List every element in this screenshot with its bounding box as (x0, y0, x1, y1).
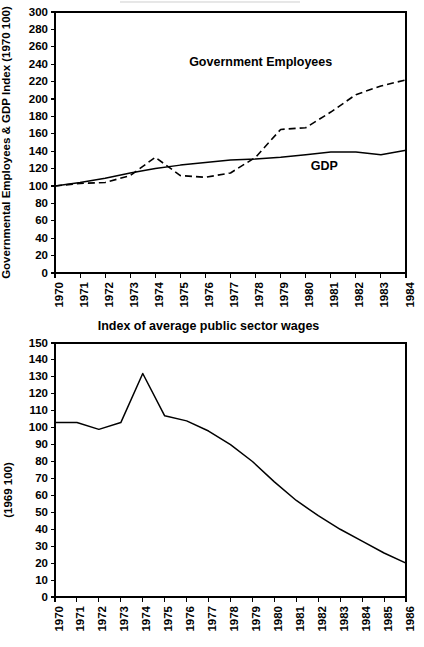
y-tick-label: 10 (35, 574, 48, 586)
x-tick-label: 1985 (382, 605, 394, 631)
x-tick-label: 1977 (206, 606, 218, 632)
y-tick-label: 150 (29, 337, 48, 349)
plot-frame-top-right (55, 343, 406, 597)
y-tick-label: 140 (29, 145, 48, 157)
x-tick-label: 1974 (153, 281, 165, 307)
x-tick-label: 1972 (96, 606, 108, 632)
y-tick-label: 240 (29, 58, 48, 70)
series-line-government-employees (55, 80, 406, 186)
y-tick-label: 110 (29, 404, 48, 416)
y-tick-label: 200 (29, 93, 48, 105)
y-tick-label: 280 (29, 23, 48, 35)
y-tick-label: 160 (29, 127, 48, 139)
chart-bottom-svg: Index of average public sector wages0102… (0, 318, 424, 647)
x-tick-label: 1981 (328, 281, 340, 307)
chart-governmental-employees-gdp: 0204060801001201401601802002202402602803… (0, 0, 424, 330)
x-tick-label: 1973 (128, 282, 140, 308)
plot-frame-top-right (55, 12, 406, 273)
chart-title: Index of average public sector wages (98, 319, 320, 333)
y-tick-label: 100 (29, 421, 48, 433)
y-tick-label: 220 (29, 75, 48, 87)
y-tick-label: 0 (42, 267, 48, 279)
x-tick-label: 1978 (253, 281, 265, 307)
y-tick-label: 30 (35, 540, 48, 552)
y-tick-label: 120 (29, 387, 48, 399)
y-tick-label: 140 (29, 353, 48, 365)
x-tick-label: 1980 (272, 606, 284, 632)
x-tick-label: 1971 (78, 281, 90, 307)
y-tick-label: 40 (35, 232, 48, 244)
x-tick-label: 1979 (278, 282, 290, 308)
series-line-public-sector-wages (55, 373, 406, 563)
x-tick-label: 1975 (162, 605, 174, 631)
y-tick-label: 80 (35, 197, 48, 209)
x-tick-label: 1973 (118, 606, 130, 632)
y-tick-label: 20 (35, 249, 48, 261)
series-annotation-government-employees: Government Employees (189, 55, 332, 69)
chart-index-average-public-sector-wages: Index of average public sector wages0102… (0, 318, 424, 647)
y-tick-label: 60 (35, 489, 48, 501)
y-tick-label: 260 (29, 40, 48, 52)
y-tick-label: 100 (29, 180, 48, 192)
x-tick-label: 1976 (184, 606, 196, 632)
x-tick-label: 1984 (360, 605, 372, 631)
y-tick-label: 70 (35, 472, 48, 484)
x-tick-label: 1982 (316, 606, 328, 632)
y-tick-label: 300 (29, 6, 48, 18)
y-tick-label: 180 (29, 110, 48, 122)
y-axis-title: (1969 100) (2, 462, 14, 518)
x-tick-label: 1978 (228, 605, 240, 631)
x-tick-label: 1970 (53, 606, 65, 632)
y-tick-label: 40 (35, 523, 48, 535)
x-tick-label: 1977 (228, 282, 240, 308)
y-tick-label: 0 (42, 591, 48, 603)
x-tick-label: 1979 (250, 606, 262, 632)
x-tick-label: 1986 (404, 606, 416, 632)
y-tick-label: 120 (29, 162, 48, 174)
x-tick-label: 1983 (338, 606, 350, 632)
chart-top-svg: 0204060801001201401601802002202402602803… (0, 0, 424, 330)
x-tick-label: 1971 (74, 605, 86, 631)
y-tick-label: 80 (35, 455, 48, 467)
x-tick-label: 1982 (353, 282, 365, 308)
x-tick-label: 1970 (53, 282, 65, 308)
x-tick-label: 1975 (178, 281, 190, 307)
y-tick-label: 90 (35, 438, 48, 450)
y-axis-title: Governmental Employees & GDP Index (1970… (0, 6, 12, 279)
series-line-gdp (55, 150, 406, 186)
x-tick-label: 1980 (303, 282, 315, 308)
chart-page: 0204060801001201401601802002202402602803… (0, 0, 424, 647)
x-tick-label: 1983 (378, 282, 390, 308)
x-tick-label: 1984 (404, 281, 416, 307)
x-tick-label: 1976 (203, 282, 215, 308)
y-tick-label: 20 (35, 557, 48, 569)
y-tick-label: 60 (35, 214, 48, 226)
x-tick-label: 1972 (103, 282, 115, 308)
y-tick-label: 50 (35, 506, 48, 518)
x-tick-label: 1974 (140, 605, 152, 631)
y-tick-label: 130 (29, 370, 48, 382)
series-annotation-gdp: GDP (311, 159, 338, 173)
x-tick-label: 1981 (294, 605, 306, 631)
